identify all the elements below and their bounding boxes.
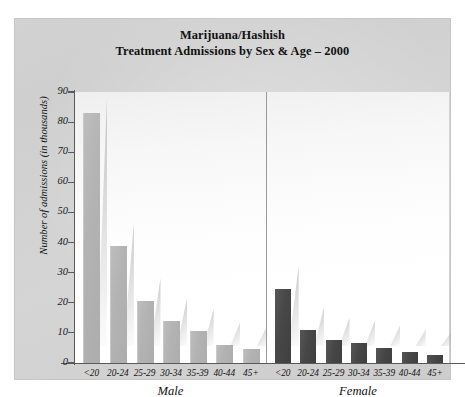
bar-male-45+ [243,349,260,363]
bar-female-35-39 [376,348,392,363]
y-tick-label-text: 50 [40,205,68,216]
x-tick-label-female-45+: 45+ [418,368,452,378]
y-tick-label-text: 60 [40,175,68,186]
chart-title: Marijuana/Hashish Treatment Admissions b… [14,28,451,59]
bar-male-30-34 [163,321,180,363]
bar-female-20-24 [300,330,316,363]
y-tick-mark [68,362,74,363]
y-tick-label: 90 [32,85,68,97]
y-tick-mark [68,152,74,153]
y-tick-mark [68,272,74,273]
y-tick-mark [68,212,74,213]
bar-female-40-44 [402,352,418,363]
y-tick-label: 80 [32,115,68,127]
y-tick-label-text: 0 [40,356,68,367]
plot-area [75,92,449,363]
chart-title-line-1: Marijuana/Hashish [14,28,451,44]
sex-group-divider [266,92,267,363]
bar-male-20-24 [110,246,127,363]
y-tick-mark [68,332,74,333]
y-tick-label: 10 [32,326,68,338]
y-tick-label-text: 10 [40,326,68,337]
bar-female-25-29 [326,340,342,363]
y-tick-mark [68,302,74,303]
bar-male-40-44 [216,345,233,363]
bar-female-45+ [427,355,443,363]
y-tick-label: 40 [32,236,68,248]
y-axis-line [74,90,75,365]
y-tick-label-text: 20 [40,296,68,307]
y-tick-label: 70 [32,145,68,157]
y-tick-label: 20 [32,296,68,308]
bar-male-25-29 [137,301,154,363]
y-tick-label-text: 90 [40,85,68,96]
y-tick-mark [68,182,74,183]
y-tick-label-text: 30 [40,266,68,277]
y-tick-label-text: 80 [40,115,68,126]
chart-panel: Marijuana/Hashish Treatment Admissions b… [14,18,451,380]
y-tick-mark [68,122,74,123]
x-tick-label-male-45+: 45+ [234,368,268,378]
chart-title-line-2: Treatment Admissions by Sex & Age – 2000 [14,44,451,60]
y-tick-label: 50 [32,205,68,217]
group-label-female: Female [267,384,449,397]
bar-male-<20 [83,113,100,363]
y-tick-label-text: 40 [40,236,68,247]
y-tick-mark [68,242,74,243]
group-label-male: Male [75,384,266,397]
x-axis-line [61,363,465,364]
y-tick-label: 0 [32,356,68,368]
y-tick-mark [68,91,74,92]
bar-male-35-39 [190,331,207,363]
y-tick-label: 30 [32,266,68,278]
y-tick-label-text: 70 [40,145,68,156]
y-tick-label: 60 [32,175,68,187]
bar-female-<20 [275,289,291,363]
bar-female-30-34 [351,343,367,363]
